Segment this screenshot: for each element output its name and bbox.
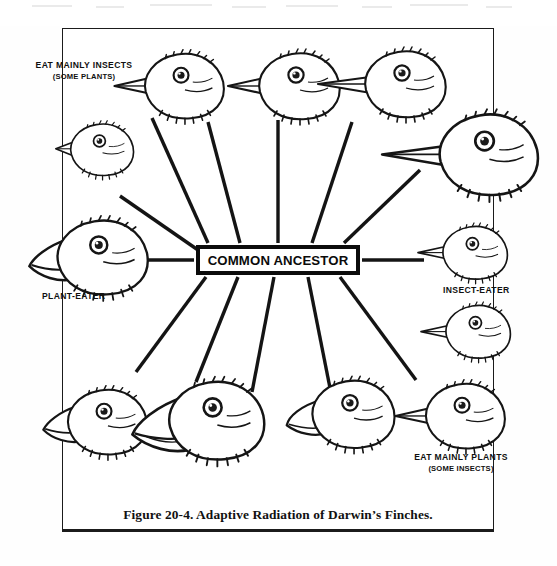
radial-diagram [0,0,557,566]
finch-head-06 [29,216,147,301]
spoke-2 [208,122,240,243]
spoke-4 [312,122,352,243]
finch-head-03 [318,47,446,123]
label-eat-mainly-insects-line2: (SOME PLANTS) [20,71,148,82]
finch-head-07 [43,386,147,460]
label-eat-mainly-plants: EAT MAINLY PLANTS (SOME INSECTS) [396,452,526,474]
caption-divider [62,530,494,532]
spoke-9 [196,277,238,382]
finch-head-10 [395,380,504,454]
finch-head-12 [418,223,507,284]
label-eat-mainly-plants-line2: (SOME INSECTS) [396,463,526,474]
label-insect-eater-text: INSECT-EATER [443,285,510,295]
finch-head-05 [56,121,134,180]
figure-caption-text: Figure 20-4. Adaptive Radiation of Darwi… [123,507,432,522]
label-plant-eater-text: PLANT-EATER [42,291,105,301]
finch-head-09 [287,376,395,454]
spoke-11 [308,277,330,388]
figure-caption: Figure 20-4. Adaptive Radiation of Darwi… [62,505,494,523]
spoke-12 [340,277,416,380]
spoke-5 [344,170,420,243]
spoke-8 [136,277,206,372]
finch-head-11 [421,302,510,363]
finch-head-08 [132,377,264,467]
label-plant-eater: PLANT-EATER [42,291,105,302]
finch-head-02 [228,49,340,125]
label-eat-mainly-plants-line1: EAT MAINLY PLANTS [414,452,508,462]
common-ancestor-node: COMMON ANCESTOR [196,245,360,275]
spoke-10 [252,277,274,392]
label-insect-eater: INSECT-EATER [443,285,510,296]
common-ancestor-label: COMMON ANCESTOR [208,253,349,268]
label-eat-mainly-insects: EAT MAINLY INSECTS (SOME PLANTS) [20,60,148,82]
label-eat-mainly-insects-line1: EAT MAINLY INSECTS [36,60,133,70]
